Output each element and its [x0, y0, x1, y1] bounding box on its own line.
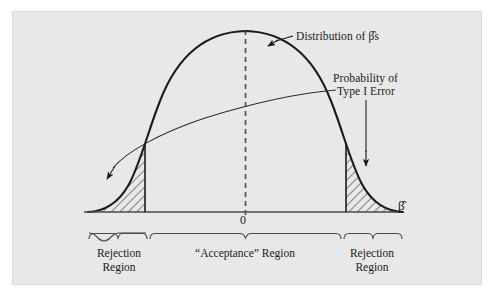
- rejection-left-line-1: Rejection: [97, 247, 141, 259]
- type-one-error-line-1: Probability of: [333, 72, 398, 84]
- rejection-left-line-2: Region: [77, 261, 161, 275]
- type-one-error-line-2: Type I Error: [333, 85, 398, 98]
- x-axis-label: β̂: [398, 199, 405, 214]
- rejection-right-line-1: Rejection: [350, 247, 394, 259]
- distribution-annotation: Distribution of β̂s: [296, 30, 379, 43]
- rejection-region-right-label: Rejection Region: [330, 247, 414, 275]
- type-one-error-arrow-left: [107, 166, 115, 179]
- acceptance-region-label: “Acceptance” Region: [180, 247, 310, 261]
- origin-tick-label: 0: [240, 214, 246, 227]
- rejection-right-line-2: Region: [330, 261, 414, 275]
- region-braces: [89, 234, 402, 240]
- rejection-region-left-label: Rejection Region: [77, 247, 161, 275]
- type-one-error-leader-left: [113, 90, 336, 168]
- type-one-error-annotation: Probability of Type I Error: [333, 72, 398, 98]
- figure-root: Distribution of β̂s Probability of Type …: [0, 0, 494, 296]
